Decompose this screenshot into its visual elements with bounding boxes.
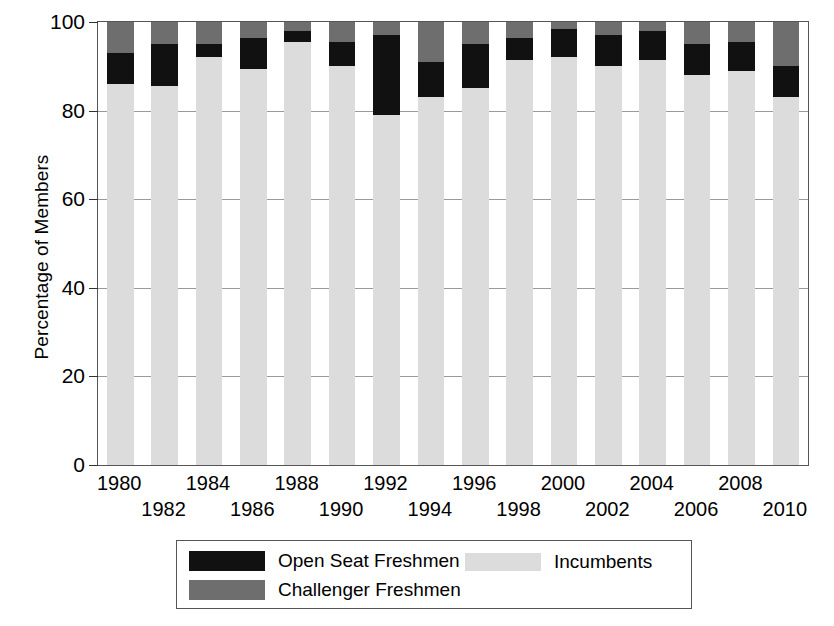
bar-segment-open-seat-freshmen (329, 42, 356, 66)
legend-item-open-seat-freshmen: Open Seat Freshmen (189, 550, 460, 572)
y-axis-tick-label: 100 (50, 10, 85, 34)
bar-segment-incumbents (506, 60, 533, 465)
y-axis-tick (89, 288, 98, 289)
bar-segment-incumbents (329, 66, 356, 465)
y-axis-tick-label: 0 (73, 453, 85, 477)
x-axis-tick-label: 2002 (585, 498, 630, 521)
x-axis-tick-label: 2008 (718, 472, 763, 495)
legend-swatch-open-seat-freshmen (189, 551, 265, 571)
bar-segment-open-seat-freshmen (506, 38, 533, 60)
bar-segment-open-seat-freshmen (107, 53, 134, 84)
bar-segment-challenger-freshmen (506, 22, 533, 38)
bar-2010 (773, 22, 800, 465)
bar-segment-incumbents (107, 84, 134, 465)
bar-segment-incumbents (462, 88, 489, 465)
bar-segment-challenger-freshmen (284, 22, 311, 31)
bar-segment-challenger-freshmen (595, 22, 622, 35)
bar-segment-open-seat-freshmen (639, 31, 666, 60)
bar-segment-open-seat-freshmen (462, 44, 489, 88)
x-axis-tick-label: 1996 (452, 472, 497, 495)
bar-segment-incumbents (639, 60, 666, 465)
legend-item-challenger-freshmen: Challenger Freshmen (189, 579, 461, 601)
y-axis-tick-label: 40 (62, 276, 85, 300)
bar-2000 (551, 22, 578, 465)
bar-1998 (506, 22, 533, 465)
y-axis-tick (89, 376, 98, 377)
legend-item-incumbents: Incumbents (465, 551, 652, 573)
x-axis-tick-label: 1984 (186, 472, 231, 495)
bar-segment-challenger-freshmen (196, 22, 223, 44)
legend-swatch-incumbents (465, 553, 541, 571)
bar-segment-challenger-freshmen (639, 22, 666, 31)
x-axis-tick-label: 2000 (541, 472, 586, 495)
x-axis-tick-label: 1990 (319, 498, 364, 521)
bar-segment-incumbents (551, 57, 578, 465)
x-axis-tick-label: 1992 (363, 472, 408, 495)
legend-swatch-challenger-freshmen (189, 580, 265, 600)
bar-segment-open-seat-freshmen (595, 35, 622, 66)
bar-segment-challenger-freshmen (240, 22, 267, 38)
bar-2008 (728, 22, 755, 465)
bar-2006 (684, 22, 711, 465)
bar-segment-open-seat-freshmen (551, 29, 578, 58)
bar-segment-open-seat-freshmen (773, 66, 800, 97)
bar-segment-challenger-freshmen (728, 22, 755, 42)
x-axis-tick-label: 2006 (674, 498, 719, 521)
y-axis-title: Percentage of Members (31, 47, 53, 467)
x-axis-tick-label: 1998 (496, 498, 541, 521)
bar-segment-open-seat-freshmen (284, 31, 311, 42)
bar-segment-incumbents (773, 97, 800, 465)
bar-1990 (329, 22, 356, 465)
bar-1988 (284, 22, 311, 465)
y-axis-tick (89, 111, 98, 112)
bar-segment-challenger-freshmen (418, 22, 445, 62)
x-axis-tick-label: 1986 (230, 498, 275, 521)
y-axis-tick (89, 22, 98, 23)
bar-segment-open-seat-freshmen (728, 42, 755, 71)
x-axis-tick-labels: 1980198219841986198819901992199419961998… (97, 466, 809, 528)
x-axis-tick-label: 1988 (274, 472, 319, 495)
bar-1984 (196, 22, 223, 465)
y-axis-tick-label: 20 (62, 364, 85, 388)
legend-label-challenger-freshmen: Challenger Freshmen (278, 579, 461, 601)
bar-segment-open-seat-freshmen (684, 44, 711, 75)
bar-segment-challenger-freshmen (151, 22, 178, 44)
bar-segment-open-seat-freshmen (240, 38, 267, 69)
bar-segment-incumbents (196, 57, 223, 465)
bar-segment-incumbents (418, 97, 445, 465)
y-axis-tick (89, 199, 98, 200)
bar-segment-incumbents (684, 75, 711, 465)
bar-2004 (639, 22, 666, 465)
bar-segment-challenger-freshmen (107, 22, 134, 53)
bar-segment-incumbents (240, 69, 267, 465)
bar-segment-incumbents (373, 115, 400, 465)
bar-segment-challenger-freshmen (373, 22, 400, 35)
bar-segment-challenger-freshmen (773, 22, 800, 66)
bar-segment-incumbents (595, 66, 622, 465)
x-axis-tick-label: 1982 (141, 498, 186, 521)
bar-segment-incumbents (284, 42, 311, 465)
stacked-bar-chart-figure: Percentage of Members 020406080100 19801… (0, 0, 834, 626)
bar-segment-challenger-freshmen (684, 22, 711, 44)
legend-label-open-seat-freshmen: Open Seat Freshmen (278, 550, 460, 572)
bar-1986 (240, 22, 267, 465)
bar-2002 (595, 22, 622, 465)
legend-label-incumbents: Incumbents (554, 551, 652, 573)
x-axis-tick-label: 2004 (629, 472, 674, 495)
bar-1994 (418, 22, 445, 465)
bar-segment-open-seat-freshmen (196, 44, 223, 57)
x-axis-tick-label: 1980 (97, 472, 142, 495)
bar-segment-challenger-freshmen (551, 22, 578, 29)
y-axis-tick-label: 80 (62, 99, 85, 123)
bar-segment-open-seat-freshmen (418, 62, 445, 97)
bar-segment-incumbents (728, 71, 755, 465)
bar-1982 (151, 22, 178, 465)
chart-legend: Open Seat Freshmen Challenger Freshmen I… (176, 540, 692, 609)
y-axis-tick-label: 60 (62, 187, 85, 211)
x-axis-tick-label: 1994 (408, 498, 453, 521)
bar-1996 (462, 22, 489, 465)
bar-segment-open-seat-freshmen (373, 35, 400, 115)
plot-area: 020406080100 (97, 21, 809, 466)
bar-segment-challenger-freshmen (329, 22, 356, 42)
bar-segment-incumbents (151, 86, 178, 465)
